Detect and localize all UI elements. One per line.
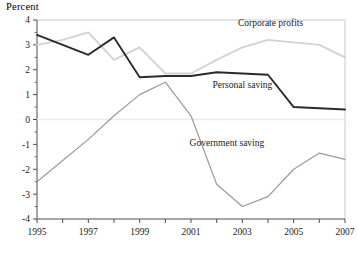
line-chart-plot: 43210-1-2-3-4 19951997199920012003200520… xyxy=(0,0,358,258)
svg-text:2: 2 xyxy=(25,65,30,75)
svg-text:0: 0 xyxy=(25,115,30,125)
y-axis-tick-labels: 43210-1-2-3-4 xyxy=(22,15,30,224)
svg-text:-3: -3 xyxy=(22,190,30,200)
svg-text:1995: 1995 xyxy=(28,227,47,237)
chart-container: Percent 43210-1-2-3-4 199519971999200120… xyxy=(0,0,358,258)
svg-text:2007: 2007 xyxy=(336,227,355,237)
svg-text:2005: 2005 xyxy=(284,227,303,237)
svg-text:Corporate profits: Corporate profits xyxy=(238,18,303,28)
svg-text:1: 1 xyxy=(25,90,30,100)
svg-text:-1: -1 xyxy=(22,140,30,150)
x-axis-ticks xyxy=(37,219,345,223)
svg-text:Government saving: Government saving xyxy=(190,138,265,148)
svg-text:4: 4 xyxy=(25,15,30,25)
svg-text:-4: -4 xyxy=(22,214,30,224)
svg-text:3: 3 xyxy=(25,40,30,50)
y-axis-ticks xyxy=(33,20,37,219)
svg-text:-2: -2 xyxy=(22,165,30,175)
series-annotations: Corporate profitsPersonal savingGovernme… xyxy=(190,18,304,147)
svg-text:2003: 2003 xyxy=(233,227,252,237)
svg-text:Personal saving: Personal saving xyxy=(212,80,272,90)
x-axis-tick-labels: 1995199719992001200320052007 xyxy=(28,227,355,237)
svg-text:1997: 1997 xyxy=(79,227,98,237)
svg-text:2001: 2001 xyxy=(182,227,201,237)
svg-text:1999: 1999 xyxy=(130,227,149,237)
